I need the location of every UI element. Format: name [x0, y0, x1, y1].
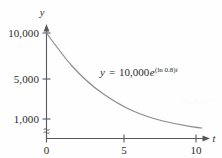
x-tick-label-0: 0 [44, 144, 50, 156]
y-axis-arrow-icon [44, 24, 50, 32]
y-axis-break-icon [44, 129, 50, 131]
equation-lhs: y [99, 66, 105, 78]
equation-coefficient: 10,000 [119, 66, 150, 78]
x-tick-label-5: 5 [121, 144, 127, 156]
y-tick-label-5000: 5,000 [14, 73, 40, 85]
equation-exponent-variable: t [176, 66, 179, 74]
y-tick-label-1000: 1,000 [14, 113, 40, 125]
equation-annotation: y=10,000e(ln 0.8)t [99, 66, 179, 78]
exponential-decay-figure: y t 10,000 5,000 1,000 0 5 10 y=10,000e(… [0, 0, 222, 158]
x-axis-label: t [213, 133, 217, 144]
decay-curve [47, 33, 203, 128]
x-tick-label-10: 10 [190, 144, 202, 156]
x-axis-arrow-icon [203, 136, 211, 142]
svg-text:y=10,000e(ln 0.8)t: y=10,000e(ln 0.8)t [99, 66, 179, 78]
equation-exponent-group: (ln 0.8) [155, 66, 176, 74]
y-axis-label: y [39, 7, 45, 18]
y-tick-label-10000: 10,000 [8, 27, 39, 39]
y-axis-break-icon-2 [44, 132, 50, 134]
watermark-text: ALAMY [180, 96, 216, 106]
equation-equals: = [109, 66, 115, 78]
plot-canvas: y t 10,000 5,000 1,000 0 5 10 y=10,000e(… [0, 0, 222, 158]
